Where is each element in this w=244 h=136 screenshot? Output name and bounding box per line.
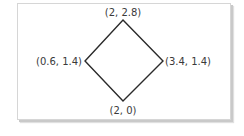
vertex-label-top: (2, 2.8)	[105, 7, 142, 18]
vertex-label-bottom: (2, 0)	[110, 105, 137, 116]
vertex-label-right: (3.4, 1.4)	[165, 56, 211, 67]
vertex-label-left: (0.6, 1.4)	[36, 56, 82, 67]
diamond-diagram: (2, 2.8) (0.6, 1.4) (3.4, 1.4) (2, 0)	[0, 0, 244, 136]
diamond-shape	[85, 20, 163, 101]
